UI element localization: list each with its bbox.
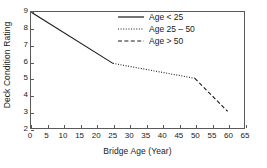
y-tick-mark [31, 12, 34, 13]
x-tick-mark [163, 125, 164, 128]
y-tick-mark [31, 79, 34, 80]
legend-item[interactable]: Age 25 – 50 [118, 23, 214, 34]
y-tick-label: 5 [14, 74, 28, 82]
y-axis-tick-labels: 23456789 [14, 11, 28, 129]
y-tick-label: 3 [14, 108, 28, 116]
legend-label: Age < 25 [149, 12, 183, 22]
legend-item[interactable]: Age > 50 [118, 35, 214, 46]
x-axis-tick-labels: 05101520253035404550556065 [30, 131, 245, 142]
legend-line-icon [118, 36, 144, 46]
y-axis-title: Deck Condition Rating [0, 0, 14, 130]
x-tick-mark [196, 125, 197, 128]
x-tick-mark [97, 125, 98, 128]
x-tick-mark [213, 125, 214, 128]
y-tick-label: 9 [14, 7, 28, 15]
x-tick-mark [229, 125, 230, 128]
y-tick-mark [31, 29, 34, 30]
legend-line-icon [118, 12, 144, 22]
chart-legend: Age < 25Age 25 – 50Age > 50 [118, 11, 214, 47]
y-tick-label: 6 [14, 58, 28, 66]
legend-line-icon [118, 24, 144, 34]
x-tick-mark [246, 125, 247, 128]
y-tick-label: 8 [14, 24, 28, 32]
legend-item[interactable]: Age < 25 [118, 11, 214, 22]
x-tick-label: 65 [235, 131, 255, 141]
y-tick-mark [31, 46, 34, 47]
x-tick-mark [48, 125, 49, 128]
y-tick-mark [31, 113, 34, 114]
y-tick-label: 7 [14, 41, 28, 49]
x-axis-title: Bridge Age (Year) [30, 146, 245, 157]
y-tick-mark [31, 96, 34, 97]
x-tick-mark [81, 125, 82, 128]
y-tick-label: 4 [14, 91, 28, 99]
data-series-line [31, 12, 113, 63]
data-series-line [195, 78, 228, 111]
y-tick-mark [31, 63, 34, 64]
legend-label: Age > 50 [149, 36, 183, 46]
x-tick-mark [180, 125, 181, 128]
x-tick-mark [31, 125, 32, 128]
legend-label: Age 25 – 50 [149, 24, 195, 34]
chart-figure: Deck Condition Rating 23456789 051015202… [0, 0, 267, 168]
x-tick-mark [147, 125, 148, 128]
x-tick-mark [130, 125, 131, 128]
x-tick-mark [114, 125, 115, 128]
data-series-line [113, 63, 195, 78]
x-tick-mark [64, 125, 65, 128]
